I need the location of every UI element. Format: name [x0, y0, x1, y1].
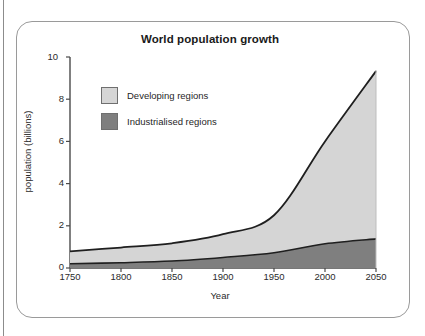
- legend-swatch-industrialised-icon: [101, 113, 118, 130]
- population-growth-chart: World population growth population (bill…: [0, 0, 425, 336]
- plot-canvas: [0, 0, 425, 336]
- chart-legend: Developing regions Industrialised region…: [101, 86, 217, 138]
- legend-label-industrialised: Industrialised regions: [127, 116, 217, 127]
- legend-label-developing: Developing regions: [127, 90, 208, 101]
- legend-item-developing: Developing regions: [101, 86, 217, 105]
- legend-item-industrialised: Industrialised regions: [101, 112, 217, 131]
- page-root: World population growth population (bill…: [0, 0, 425, 336]
- legend-swatch-developing-icon: [101, 87, 118, 104]
